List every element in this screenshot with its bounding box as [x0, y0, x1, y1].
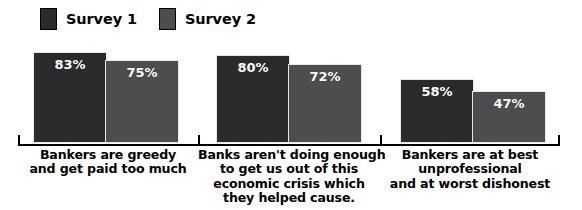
axis-baseline	[18, 144, 560, 146]
bar-group: 83% 75%	[33, 36, 179, 143]
legend-label: Survey 2	[185, 12, 256, 27]
bar-value-label: 80%	[237, 61, 268, 74]
legend-swatch-icon	[159, 8, 176, 30]
legend-label: Survey 1	[66, 12, 137, 27]
bar-value-label: 83%	[54, 58, 85, 71]
legend-entry-survey-1: Survey 1	[40, 8, 137, 30]
chart-category-labels: Bankers are greedy and get paid too much…	[0, 148, 582, 210]
category-label-line: unprofessional	[380, 162, 560, 176]
bar-value-label: 58%	[421, 85, 452, 98]
bar-group: 80% 72%	[216, 36, 362, 143]
bar-group: 58% 47%	[400, 36, 546, 143]
category-label-line: they helped cause.	[198, 191, 380, 205]
axis-tick	[198, 135, 200, 144]
category-label-line: to get us out of this	[198, 162, 380, 176]
legend-entry-survey-2: Survey 2	[159, 8, 256, 30]
axis-tick	[380, 135, 382, 144]
bar-value-label: 72%	[309, 70, 340, 83]
chart-legend: Survey 1 Survey 2	[40, 6, 256, 32]
bar: 72%	[288, 64, 362, 143]
category-label-line: Bankers are greedy	[18, 148, 198, 162]
axis-tick	[18, 135, 20, 144]
bar: 83%	[33, 52, 107, 143]
category-label-line: and get paid too much	[18, 162, 198, 176]
bar: 47%	[472, 91, 546, 143]
bar-value-label: 75%	[126, 66, 157, 79]
bar: 75%	[105, 60, 179, 143]
category-label-line: economic crisis which	[198, 177, 380, 191]
bar: 80%	[216, 55, 290, 143]
axis-tick	[558, 135, 560, 144]
legend-swatch-icon	[40, 8, 57, 30]
category-label: Banks aren't doing enough to get us out …	[198, 148, 380, 206]
category-label-line: Bankers are at best	[380, 148, 560, 162]
category-label-line: and at worst dishonest	[380, 177, 560, 191]
bar-value-label: 47%	[493, 97, 524, 110]
category-label: Bankers are at best unprofessional and a…	[380, 148, 560, 191]
bar: 58%	[400, 79, 474, 143]
chart-plot-area: 83% 75% 80% 72% 58% 47%	[0, 36, 582, 143]
category-label-line: Banks aren't doing enough	[198, 148, 380, 162]
category-label: Bankers are greedy and get paid too much	[18, 148, 198, 177]
